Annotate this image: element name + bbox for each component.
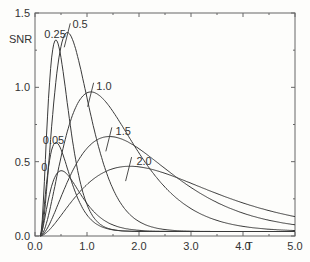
curve-2.0 — [40, 166, 295, 236]
y-tick-label: 1.5 — [15, 7, 30, 19]
y-axis-label: SNR — [9, 33, 32, 45]
x-axis-label: T — [246, 240, 253, 252]
curve-1.0 — [40, 92, 295, 236]
peak-marker — [106, 127, 112, 151]
curve-0.25 — [40, 40, 295, 236]
curve-1.5 — [40, 137, 295, 237]
plot-frame — [35, 13, 295, 236]
curve-label-1.0: 1.0 — [96, 80, 111, 92]
curve-label-0.05: 0.05 — [43, 134, 64, 146]
curve-label-0.25: 0.25 — [44, 28, 65, 40]
y-tick-label: 1.0 — [15, 81, 30, 93]
snr-vs-t-chart: 0.01.02.03.04.05.0 0.00.51.01.5 00.050.2… — [0, 0, 310, 262]
x-tick-label: 3.0 — [183, 240, 198, 252]
curve-label-1.5: 1.5 — [116, 125, 131, 137]
curve-label-0.5: 0.5 — [72, 18, 87, 30]
x-tick-label: 5.0 — [287, 240, 302, 252]
curve-0 — [40, 171, 295, 236]
y-tick-label: 0.0 — [15, 230, 30, 242]
x-axis-ticks: 0.01.02.03.04.05.0 — [27, 13, 302, 252]
x-tick-label: 2.0 — [131, 240, 146, 252]
x-tick-label: 1.0 — [79, 240, 94, 252]
curve-0.5 — [40, 33, 295, 237]
chart-svg: 0.01.02.03.04.05.0 0.00.51.01.5 00.050.2… — [0, 0, 310, 262]
y-tick-label: 0.5 — [15, 156, 30, 168]
curve-labels: 00.050.250.51.01.52.0 — [41, 18, 151, 173]
peak-marker — [88, 83, 94, 107]
curves — [40, 23, 295, 236]
curve-label-2.0: 2.0 — [136, 155, 151, 167]
peak-marker — [126, 157, 132, 181]
curve-label-0: 0 — [41, 161, 47, 173]
